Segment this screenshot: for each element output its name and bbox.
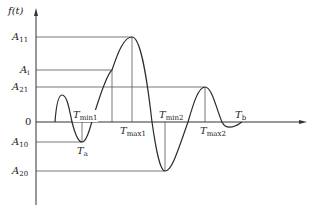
label-tmax2: Tmax2 xyxy=(200,126,226,138)
time-guides xyxy=(82,37,205,171)
y-axis-label: f(t) xyxy=(8,6,24,16)
label-zero: 0 xyxy=(25,117,31,127)
y-axis-arrow-icon xyxy=(34,8,38,16)
label-tb: Tb xyxy=(235,110,246,122)
label-a21: A21 xyxy=(12,82,28,94)
x-axis-arrow-icon xyxy=(299,120,307,124)
label-ta: Ta xyxy=(77,146,88,158)
label-a10: A10 xyxy=(12,137,28,149)
label-a11: A11 xyxy=(12,32,28,44)
label-ai: Ai xyxy=(20,65,29,77)
axes xyxy=(34,8,307,205)
label-a20: A20 xyxy=(12,166,28,178)
waveform-diagram xyxy=(0,0,313,214)
label-tmin1: Tmin1 xyxy=(73,110,98,122)
label-tmax1: Tmax1 xyxy=(120,126,146,138)
label-tmin2: Tmin2 xyxy=(159,110,184,122)
level-guides xyxy=(36,37,205,171)
